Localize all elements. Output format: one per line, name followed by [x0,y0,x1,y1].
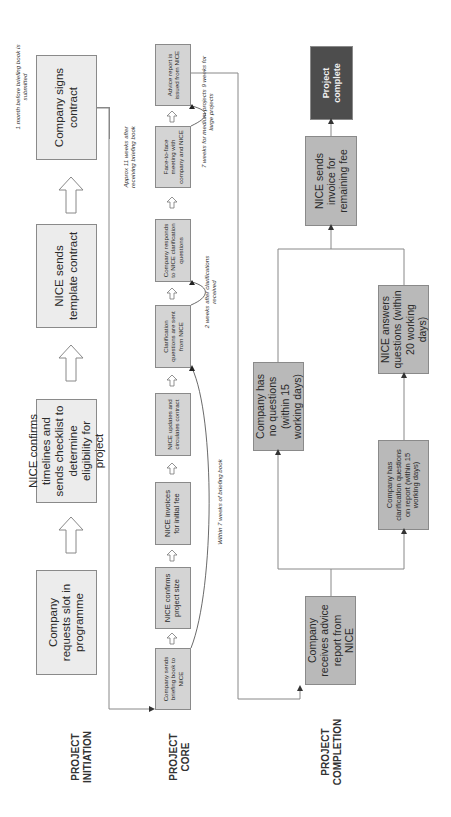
flowchart-canvas: PROJECT INITIATION PROJECT CORE PROJECT … [0,0,451,817]
completion-connectors [0,0,451,817]
